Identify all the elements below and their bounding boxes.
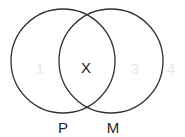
set-m-label: M (107, 120, 120, 135)
region-intersection-label: X (81, 60, 91, 75)
region-outside-label: 4 (167, 61, 175, 76)
region-only-m-label: 3 (131, 61, 139, 76)
circle-p (11, 9, 115, 113)
venn-diagram (0, 0, 185, 137)
circle-m (59, 9, 163, 113)
region-only-p-label: 1 (36, 61, 44, 76)
set-p-label: P (58, 120, 68, 135)
